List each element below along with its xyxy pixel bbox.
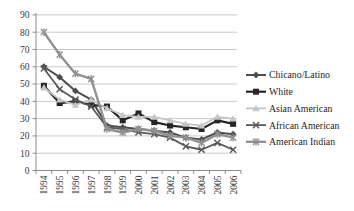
x-axis-tick-label: 2006 <box>229 175 239 194</box>
x-axis-tick-label: 1994 <box>39 175 49 194</box>
y-axis-tick-label: 50 <box>20 79 30 89</box>
legend-item-asian-american: Asian American <box>246 103 332 114</box>
legend-label: Asian American <box>269 103 332 114</box>
x-axis-tick-label: 2001 <box>150 175 160 194</box>
x-axis-tick-label: 2000 <box>134 175 144 194</box>
square-marker <box>120 117 126 123</box>
square-marker <box>151 119 157 125</box>
star-marker <box>57 51 63 59</box>
square-marker <box>167 123 173 129</box>
y-axis-tick-label: 70 <box>20 45 30 55</box>
x-axis-tick-label: 1999 <box>118 175 128 194</box>
x-axis-tick-label: 2004 <box>197 175 207 194</box>
x-axis-tick-label: 2003 <box>181 175 191 194</box>
diamond-marker <box>253 72 260 79</box>
legend-label: African American <box>269 120 340 131</box>
x-axis-tick-label: 2005 <box>213 175 223 194</box>
legend-label: Chicano/Latino <box>269 69 330 80</box>
chart-figure: 0102030405060708090199419951996199719981… <box>0 0 354 211</box>
y-axis-tick-label: 90 <box>20 10 30 20</box>
legend-item-chicano-latino: Chicano/Latino <box>246 69 330 80</box>
y-axis-tick-label: 40 <box>20 97 30 107</box>
legend-item-african-american: African American <box>246 120 340 131</box>
x-axis-tick-label: 2002 <box>166 175 176 194</box>
legend-label: American Indian <box>269 136 335 147</box>
x-marker <box>57 86 63 92</box>
x-axis-tick-label: 1996 <box>71 175 81 194</box>
line-chart: 0102030405060708090199419951996199719981… <box>0 0 354 211</box>
square-marker <box>230 121 236 127</box>
y-axis-tick-label: 10 <box>20 149 30 159</box>
y-axis-tick-label: 60 <box>20 62 30 72</box>
x-axis-tick-label: 1995 <box>55 175 65 194</box>
y-axis-tick-label: 0 <box>25 166 30 176</box>
legend-item-american-indian: American Indian <box>246 136 335 147</box>
x-axis-tick-label: 1997 <box>87 175 97 194</box>
x-axis-tick-label: 1998 <box>103 175 113 194</box>
legend-label: White <box>269 86 294 97</box>
y-axis-tick-label: 80 <box>20 28 30 38</box>
y-axis-tick-label: 20 <box>20 131 30 141</box>
series-line-asian-american <box>44 88 233 126</box>
legend-item-white: White <box>246 86 294 97</box>
y-axis-tick-label: 30 <box>20 114 30 124</box>
series-markers-white <box>41 83 236 132</box>
square-marker <box>253 89 259 95</box>
